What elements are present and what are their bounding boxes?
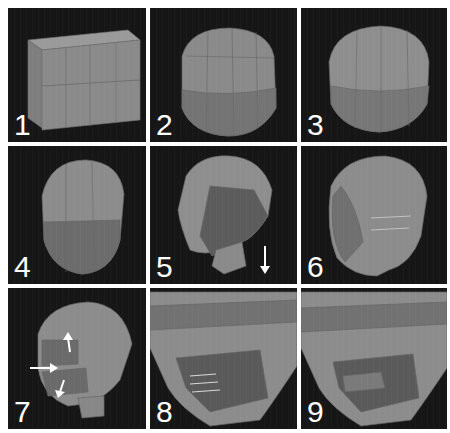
figure-grid: 1 2 3 4 bbox=[8, 8, 442, 427]
panel-6: 6 bbox=[301, 146, 447, 284]
step-label: 7 bbox=[14, 397, 31, 427]
panel-9: 9 bbox=[301, 288, 447, 429]
panel-5: 5 bbox=[150, 146, 297, 284]
panel-1: 1 bbox=[8, 8, 146, 142]
step-label: 9 bbox=[307, 397, 324, 427]
panel-7: 7 bbox=[8, 288, 146, 429]
step-label: 6 bbox=[307, 252, 324, 282]
step-label: 3 bbox=[307, 110, 324, 140]
panel-3: 3 bbox=[301, 8, 447, 142]
step-label: 1 bbox=[14, 110, 31, 140]
step-label: 4 bbox=[14, 252, 31, 282]
step-label: 2 bbox=[156, 110, 173, 140]
step-label: 5 bbox=[156, 252, 173, 282]
step-label: 8 bbox=[156, 397, 173, 427]
panel-2: 2 bbox=[150, 8, 297, 142]
panel-4: 4 bbox=[8, 146, 146, 284]
panel-8: 8 bbox=[150, 288, 297, 429]
